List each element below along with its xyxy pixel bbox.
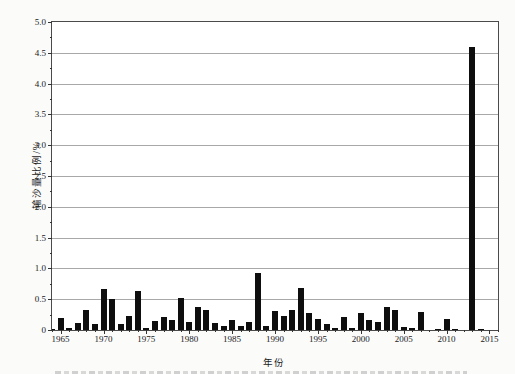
y-tick-label: 5.0 [35,18,46,27]
y-major-tick [48,22,52,23]
bar-1976 [152,321,158,330]
x-minor-tick [455,330,456,332]
x-minor-tick [292,330,293,332]
bar-1977 [161,317,167,330]
y-minor-tick [50,253,52,254]
x-minor-tick [112,330,113,332]
bar-1998 [341,317,347,330]
x-tick-label: 1975 [137,334,155,344]
figure: 输沙量比例/% 00.51.01.52.02.53.03.54.04.55.0 … [0,0,515,374]
y-major-tick [48,176,52,177]
y-tick-label: 4.5 [35,48,46,57]
bar-1995 [315,319,321,330]
y-minor-tick [50,284,52,285]
y-tick-label: 1.0 [35,264,46,273]
bar-2002 [375,322,381,330]
y-minor-tick [50,191,52,192]
x-minor-tick [241,330,242,332]
x-minor-tick [258,330,259,332]
gridline [52,84,498,85]
gridline [52,145,498,146]
x-tick-label: 1990 [266,334,284,344]
bar-1965 [58,318,64,330]
x-minor-tick [421,330,422,332]
x-minor-tick [138,330,139,332]
gridline [52,207,498,208]
x-minor-tick [498,330,499,332]
x-minor-tick [155,330,156,332]
x-minor-tick [481,330,482,332]
x-minor-tick [164,330,165,332]
y-major-tick [48,84,52,85]
x-minor-tick [172,330,173,332]
x-minor-tick [206,330,207,332]
x-minor-tick [266,330,267,332]
y-minor-tick [50,161,52,162]
x-minor-tick [335,330,336,332]
bar-1970 [101,289,107,330]
bar-1980 [186,322,192,330]
x-minor-tick [224,330,225,332]
x-minor-tick [352,330,353,332]
y-tick-label: 3.0 [35,141,46,150]
y-tick-label: 3.5 [35,110,46,119]
bar-2013 [469,47,475,330]
y-minor-tick [50,99,52,100]
bar-2001 [366,320,372,330]
bar-1981 [195,307,201,330]
x-tick-label: 2015 [480,334,498,344]
bar-1967 [75,323,81,330]
x-tick-label: 1985 [223,334,241,344]
y-major-tick [48,207,52,208]
y-minor-tick [50,68,52,69]
bar-2000 [358,313,364,330]
x-minor-tick [429,330,430,332]
bar-1993 [298,288,304,330]
x-tick-label: 2010 [438,334,456,344]
y-major-tick [48,145,52,146]
gridline [52,238,498,239]
x-axis-label: 年份 [51,355,497,369]
x-minor-tick [369,330,370,332]
bar-1974 [135,291,141,330]
x-minor-tick [284,330,285,332]
x-minor-tick [412,330,413,332]
x-minor-tick [78,330,79,332]
x-tick-label: 1980 [180,334,198,344]
x-tick-label: 2000 [352,334,370,344]
bar-1992 [289,310,295,330]
y-tick-label: 2.0 [35,202,46,211]
bar-1983 [212,323,218,330]
x-minor-tick [395,330,396,332]
x-tick-label: 1995 [309,334,327,344]
x-minor-tick [86,330,87,332]
bar-1991 [281,316,287,330]
y-major-tick [48,238,52,239]
x-minor-tick [378,330,379,332]
bar-1985 [229,320,235,330]
x-minor-tick [309,330,310,332]
gridline [52,268,498,269]
x-minor-tick [344,330,345,332]
x-minor-tick [198,330,199,332]
bar-1979 [178,298,184,330]
bar-2007 [418,312,424,330]
bar-1968 [83,310,89,330]
x-tick-label: 1965 [52,334,70,344]
bar-1982 [203,310,209,330]
bar-1987 [246,322,252,330]
x-minor-tick [249,330,250,332]
x-minor-tick [181,330,182,332]
y-tick-label: 0.5 [35,295,46,304]
x-minor-tick [464,330,465,332]
bar-2010 [444,319,450,330]
x-tick-label: 2005 [395,334,413,344]
y-minor-tick [50,222,52,223]
y-major-tick [48,299,52,300]
bar-2003 [384,307,390,330]
bar-1971 [109,299,115,330]
bar-1978 [169,320,175,330]
bar-1990 [272,311,278,330]
y-minor-tick [50,130,52,131]
x-minor-tick [69,330,70,332]
